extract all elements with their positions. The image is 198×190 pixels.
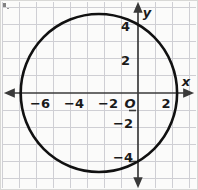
origin-label: O [124, 96, 135, 111]
x-tick-label--4: −4 [64, 96, 84, 111]
y-tick-label-2: 2 [121, 53, 130, 68]
x-tick-label--6: −6 [30, 96, 50, 111]
graph-screenshot: −6 −4 −2 2 4 2 −2 −4 O x y [0, 0, 198, 190]
axes [6, 4, 192, 186]
x-tick-label-2: 2 [161, 96, 170, 111]
x-axis-label: x [181, 74, 191, 89]
grid-lines [2, 2, 196, 188]
y-tick-label--4: −4 [113, 150, 133, 165]
y-axis-label: y [143, 5, 152, 20]
x-tick-label--2: −2 [98, 96, 118, 111]
y-axis-arrow-up [135, 4, 142, 12]
coordinate-plane-svg: −6 −4 −2 2 4 2 −2 −4 O x y [0, 0, 198, 190]
y-tick-label-4: 4 [121, 19, 130, 34]
x-axis-arrow-right [184, 90, 192, 97]
coordinate-plane: −6 −4 −2 2 4 2 −2 −4 O x y [0, 0, 198, 190]
y-axis-arrow-down [135, 178, 142, 186]
x-axis-arrow-left [6, 90, 14, 97]
y-tick-label--2: −2 [113, 116, 133, 131]
